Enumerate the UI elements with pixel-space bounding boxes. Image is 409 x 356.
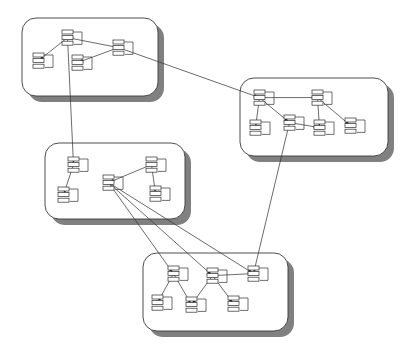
node-cell <box>103 186 114 190</box>
node-cell <box>254 96 265 100</box>
diagram-svg <box>0 0 409 356</box>
node-cell <box>113 46 124 50</box>
node-cell <box>314 131 325 135</box>
node-cell <box>103 175 114 179</box>
node-cell <box>168 266 179 270</box>
node-cell <box>62 41 73 45</box>
cluster-container[interactable] <box>143 253 288 331</box>
node-cell <box>150 186 161 190</box>
node-cell <box>58 193 69 197</box>
node-cell <box>312 101 323 105</box>
node-cell <box>68 157 79 161</box>
node-cell <box>284 126 295 130</box>
node-cell <box>314 120 325 124</box>
node-cell <box>72 55 83 59</box>
node-cell <box>113 51 124 55</box>
node-cell <box>345 129 356 133</box>
node-cell <box>186 297 197 301</box>
node-cell <box>248 277 259 281</box>
node-cell <box>228 302 239 306</box>
node-cell <box>72 61 83 65</box>
node-cell <box>72 66 83 70</box>
node-cell <box>250 120 261 124</box>
node-cell <box>58 198 69 202</box>
node-cell <box>228 307 239 311</box>
node-cell <box>207 268 218 272</box>
node-cell <box>33 64 44 68</box>
node-cell <box>248 272 259 276</box>
node-cell <box>254 90 265 94</box>
node-cell <box>250 126 261 130</box>
node-cell <box>186 308 197 312</box>
node-cell <box>314 126 325 130</box>
diagram-canvas <box>0 0 409 356</box>
node-cell <box>103 181 114 185</box>
node-cell <box>62 36 73 40</box>
node-cell <box>248 266 259 270</box>
node-cell <box>312 90 323 94</box>
node-cell <box>168 272 179 276</box>
node-cell <box>168 277 179 281</box>
node-cell <box>254 101 265 105</box>
node-cell <box>250 131 261 135</box>
node-cell <box>345 124 356 128</box>
node-cell <box>207 279 218 283</box>
node-cell <box>113 40 124 44</box>
node-cell <box>62 30 73 34</box>
node-cell <box>58 187 69 191</box>
node-cell <box>146 157 157 161</box>
node-cell <box>68 168 79 172</box>
node-cell <box>207 274 218 278</box>
cluster-container[interactable] <box>45 143 185 219</box>
node-cell <box>152 295 163 299</box>
node-cell <box>150 197 161 201</box>
node-cell <box>152 306 163 310</box>
node-cell <box>146 163 157 167</box>
node-cell <box>152 301 163 305</box>
node-cell <box>284 115 295 119</box>
node-cell <box>284 121 295 125</box>
node-cell <box>150 192 161 196</box>
node-cell <box>228 296 239 300</box>
node-cell <box>33 59 44 63</box>
node-cell <box>146 168 157 172</box>
node-cell <box>33 53 44 57</box>
node-cell <box>186 303 197 307</box>
node-cell <box>345 118 356 122</box>
node-cell <box>68 163 79 167</box>
node-cell <box>312 96 323 100</box>
